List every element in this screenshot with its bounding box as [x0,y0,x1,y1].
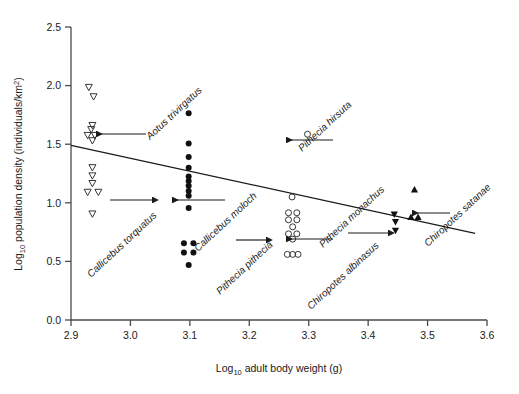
marker-open-triangle-down [89,138,96,144]
marker-open-circle [289,194,295,200]
species-label-pithecia-monachus: Pithecia monachus [317,184,386,250]
marker-filled-circle [181,240,187,246]
marker-filled-circle [186,205,192,211]
series-pithecia-pithecia [284,210,301,258]
marker-filled-circle [181,250,187,256]
plot-axes [65,27,487,326]
x-tick-label: 2.9 [64,329,79,341]
y-tick-label: 0.0 [46,314,61,326]
marker-open-circle [294,231,300,237]
y-tick-label: 1.5 [46,138,61,150]
x-tick-label: 3.3 [301,329,316,341]
species-label-pithecia-hirsuta: Pithecia hirsuta [296,98,354,153]
marker-filled-triangle-up [411,186,418,192]
species-label-pithecia-pithecia: Pithecia pithecia [214,238,275,296]
marker-filled-triangle-down [392,219,399,225]
y-tick-labels: 0.00.51.01.52.02.5 [46,21,61,326]
x-tick-label: 3.4 [361,329,376,341]
marker-open-circle [286,217,292,223]
figure-root: 0.00.51.01.52.02.5 2.93.03.13.23.33.43.5… [0,0,519,394]
y-tick-label: 0.5 [46,255,61,267]
svg-text:Log10 adult body weight (g): Log10 adult body weight (g) [216,362,342,377]
x-axis-title: Log10 adult body weight (g) [216,362,342,377]
marker-open-circle [290,224,296,230]
x-tick-label: 3.2 [242,329,257,341]
x-tick-label: 3.1 [183,329,198,341]
x-tick-label: 3.6 [480,329,495,341]
marker-open-triangle-down [89,211,96,217]
svg-text:Log10 population density (indi: Log10 population density (individuals/km… [12,77,27,270]
species-label-callicebus-torquatus: Callicebus torquatus [85,210,159,280]
marker-filled-circle [186,193,192,199]
y-axis-ticks [65,27,71,320]
marker-open-triangle-down [84,189,91,195]
marker-open-circle [294,217,300,223]
marker-open-circle [286,231,292,237]
marker-open-triangle-down [89,165,96,171]
marker-filled-circle [186,141,192,147]
y-axis-title: Log10 population density (individuals/km… [12,77,27,270]
marker-open-circle [294,210,300,216]
marker-open-triangle-down [89,122,96,128]
species-label-aotus-trivirgatus: Aotus trivirgatus [143,85,204,143]
marker-filled-circle [186,165,192,171]
series-aotus-trivirgatus [84,84,102,217]
y-tick-label: 2.5 [46,21,61,33]
marker-filled-triangle-up [407,213,414,219]
y-tick-label: 2.0 [46,79,61,91]
marker-filled-triangle-down [392,228,399,234]
x-tick-label: 3.5 [420,329,435,341]
marker-filled-circle [186,262,192,268]
marker-open-triangle-down [89,173,96,179]
series-chiropotes-satanae [407,186,421,220]
marker-open-triangle-down [85,84,92,90]
series-pithecia-monachus [289,194,295,200]
x-axis-ticks [71,320,487,326]
marker-filled-circle [186,110,192,116]
x-tick-labels: 2.93.03.13.23.33.43.53.6 [64,329,495,341]
x-tick-label: 3.0 [123,329,138,341]
marker-open-circle [286,210,292,216]
marker-filled-triangle-up [414,213,421,219]
species-label-callicebus-moloch: Callicebus moloch [192,190,259,254]
y-tick-label: 1.0 [46,197,61,209]
marker-open-triangle-down [90,94,97,100]
marker-filled-circle [186,183,192,189]
marker-filled-circle [186,154,192,160]
species-label-chiropotes-satanae: Chiropotes satanae [422,181,493,248]
marker-open-triangle-down [95,189,102,195]
scatter-plot: 0.00.51.01.52.02.5 2.93.03.13.23.33.43.5… [0,0,519,394]
marker-open-triangle-down [89,180,96,186]
species-label-chiropotes-albinasus: Chiropotes albinasus [305,240,381,312]
